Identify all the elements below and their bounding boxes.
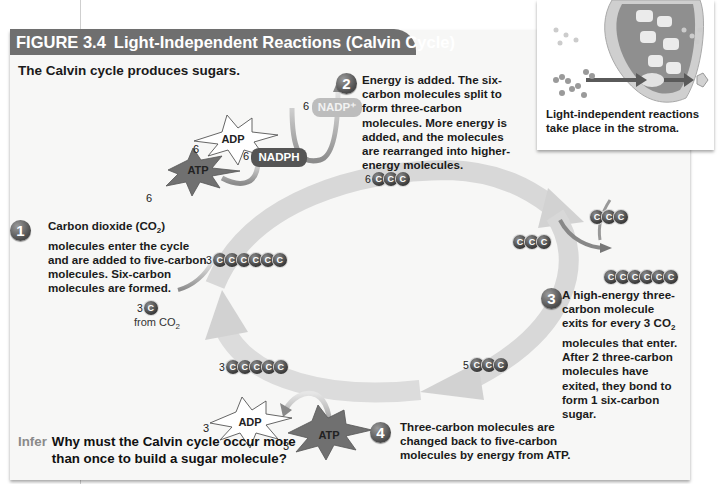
- from-co2-label: from CO2: [134, 316, 180, 331]
- step-3-badge: 3: [541, 288, 562, 309]
- infer-question-text: Why must the Calvin cycle occur more tha…: [52, 433, 312, 467]
- nadph-pill: NADPH: [251, 148, 307, 167]
- nadp-coefficient: 6: [303, 100, 309, 112]
- second-three-carbon-molecule: C C C: [590, 210, 628, 224]
- step-4-text: Three-carbon molecules are changed back …: [400, 420, 600, 463]
- figure-page: FIGURE 3.4Light-Independent Reactions (C…: [0, 0, 724, 484]
- carbon-atom: C: [396, 172, 410, 186]
- top-adp-label: ADP: [213, 133, 253, 145]
- nadp-pill: NADP⁺: [312, 98, 362, 117]
- step-2-text: Energy is added. The six-carbon molecule…: [362, 73, 522, 172]
- cycle-arrow-top: [215, 170, 550, 285]
- step-4-badge: 4: [370, 422, 391, 443]
- bottom-atp-label: ATP: [309, 429, 349, 441]
- figure-title-banner: FIGURE 3.4Light-Independent Reactions (C…: [10, 29, 416, 55]
- figure-title: Light-Independent Reactions (Calvin Cycl…: [114, 33, 455, 51]
- three-six-carbon-molecules: 3 C C C C C C: [206, 253, 287, 267]
- cycle-arrowhead-left: [205, 290, 248, 340]
- infer-question: InferWhy must the Calvin cycle occur mor…: [18, 433, 312, 467]
- figure-number: FIGURE 3.4: [16, 33, 106, 51]
- top-atp-coefficient: 6: [146, 192, 152, 204]
- three-five-carbon-molecules: 3 C C C C C: [219, 360, 288, 374]
- co2-carbon-input: 3 C: [137, 301, 158, 315]
- inset-caption: Light-independent reactions take place i…: [546, 107, 711, 135]
- five-three-carbon-molecules: 5 C C C: [463, 358, 508, 372]
- top-adp-coefficient: 6: [193, 143, 199, 155]
- nadph-coefficient: 6: [243, 150, 249, 162]
- top-atp-label: ATP: [178, 164, 218, 176]
- six-three-carbon-molecules: 6 C C C: [365, 172, 410, 186]
- infer-keyword: Infer: [18, 434, 47, 449]
- step-1-text: Carbon dioxide (CO2) molecules enter the…: [48, 219, 208, 295]
- step-3-text: A high-energy three-carbon molecule exit…: [562, 288, 682, 421]
- six-carbon-sugar: C C C C C C: [604, 270, 678, 284]
- bottom-adp-label: ADP: [230, 416, 270, 428]
- stroma-inset: Light-independent reactions take place i…: [537, 0, 714, 150]
- step-1-badge: 1: [10, 220, 31, 241]
- step-2-badge: 2: [336, 73, 357, 94]
- exiting-three-carbon-molecule: C C C: [513, 235, 551, 249]
- figure-subtitle: The Calvin cycle produces sugars.: [18, 63, 240, 78]
